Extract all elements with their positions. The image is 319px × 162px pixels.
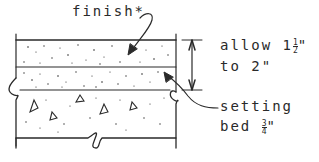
dimension-label-line1: allow 112" (220, 37, 308, 54)
finish-label: finish* (72, 3, 145, 19)
right-break-symbol (170, 91, 178, 148)
setting-bed-text-suffix: " (267, 118, 277, 134)
dimension-label-line2: to 2" (220, 58, 272, 74)
slab-stipple (25, 97, 164, 132)
setting-bed-label-line1: setting (220, 98, 293, 114)
finish-leader-line (132, 14, 152, 50)
section-drawing (0, 0, 319, 162)
setting-bed-text-prefix: bed (220, 118, 262, 134)
slab-aggregate (30, 95, 137, 120)
setting-bed-stipple (23, 71, 158, 87)
setting-bed-label-line2: bed 34" (220, 118, 277, 135)
setting-bed-leader-arrow (164, 72, 173, 82)
dimension-text-prefix: allow 1 (220, 37, 293, 53)
dimension-text-suffix: " (298, 37, 308, 53)
slab-bottom-line (16, 133, 176, 148)
finish-stipple (23, 44, 168, 64)
